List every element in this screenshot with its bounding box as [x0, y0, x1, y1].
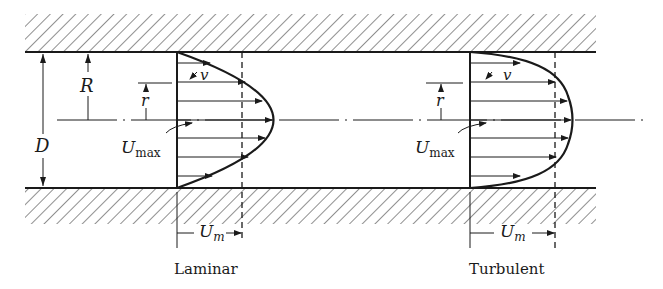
- label-D: D: [34, 135, 50, 156]
- label-r-right: r: [436, 91, 445, 110]
- label-um-left: Um: [199, 221, 225, 244]
- caption-laminar: Laminar: [174, 260, 239, 278]
- caption-turbulent: Turbulent: [469, 260, 544, 278]
- pipe-flow-diagram: D R r v Umax Um Laminar: [0, 0, 663, 289]
- label-v-left: v: [200, 66, 209, 84]
- label-umax-left: Umax: [121, 137, 161, 160]
- bottom-wall: [25, 188, 596, 224]
- label-umax-right: Umax: [415, 137, 455, 160]
- label-um-right: Um: [500, 221, 526, 244]
- r-dimension-right: [426, 83, 463, 120]
- label-v-right: v: [503, 66, 512, 84]
- label-R: R: [79, 75, 94, 96]
- top-wall: [25, 14, 596, 52]
- label-r-left: r: [141, 91, 150, 110]
- diameter-dimension: [40, 54, 46, 186]
